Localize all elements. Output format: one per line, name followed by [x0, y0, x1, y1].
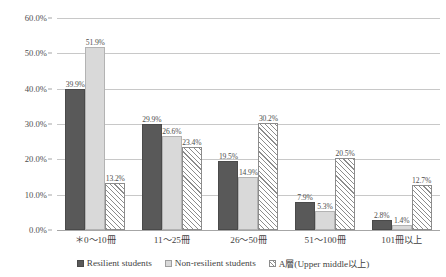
legend-label: Non-resilient students	[175, 258, 256, 268]
bar-non-resilient-students[interactable]: 26.6%	[162, 136, 182, 230]
bar-value-label: 19.5%	[219, 152, 238, 161]
bar-a-layer[interactable]: 12.7%	[412, 185, 432, 230]
bar-value-label: 30.2%	[259, 114, 278, 123]
bar-value-label: 2.8%	[374, 211, 389, 220]
bar-non-resilient-students[interactable]: 51.9%	[85, 47, 105, 230]
bar-slot: 39.9%	[65, 18, 85, 230]
y-tick-label: 60.0%	[25, 13, 47, 23]
bar-a-layer[interactable]: 20.5%	[335, 158, 355, 231]
bar-group: 39.9% 51.9% 13.2%	[57, 18, 134, 230]
legend-label: Resilient students	[87, 258, 152, 268]
bar-value-label: 20.5%	[336, 149, 355, 158]
bar-value-label: 12.7%	[412, 176, 431, 185]
y-tick-label: 0.0%	[29, 225, 47, 235]
bar-a-layer[interactable]: 23.4%	[182, 147, 202, 230]
bar-non-resilient-students[interactable]: 14.9%	[238, 177, 258, 230]
y-tick-mark	[48, 124, 52, 125]
y-tick-mark	[48, 53, 52, 54]
bar-value-label: 29.9%	[142, 115, 161, 124]
bar-value-label: 26.6%	[162, 127, 181, 136]
x-category-label: ＊0～10冊	[57, 232, 134, 246]
legend-swatch-icon	[77, 260, 84, 267]
bar-non-resilient-students[interactable]: 1.4%	[392, 225, 412, 230]
legend-label: A層(Upper middle以上)	[279, 256, 370, 270]
bar-slot: 5.3%	[315, 18, 335, 230]
bar-resilient-students[interactable]: 29.9%	[142, 124, 162, 230]
bar-a-layer[interactable]: 30.2%	[258, 123, 278, 230]
bar-slot: 51.9%	[85, 18, 105, 230]
legend-item-resilient-students[interactable]: Resilient students	[77, 258, 152, 268]
bar-resilient-students[interactable]: 19.5%	[218, 161, 238, 230]
bar-value-label: 39.9%	[66, 80, 85, 89]
plot-area: 39.9% 51.9% 13.2%	[57, 18, 440, 230]
y-tick-mark	[48, 230, 52, 231]
bar-value-label: 7.9%	[297, 193, 312, 202]
bar-chart: 60.0% 50.0% 40.0% 30.0% 20.0% 10.0% 0.0%	[0, 0, 446, 277]
bar-value-label: 51.9%	[86, 38, 105, 47]
bar-group: 19.5% 14.9% 30.2%	[210, 18, 287, 230]
bar-slot: 26.6%	[162, 18, 182, 230]
bar-groups: 39.9% 51.9% 13.2%	[57, 18, 440, 230]
y-axis: 60.0% 50.0% 40.0% 30.0% 20.0% 10.0% 0.0%	[0, 18, 52, 230]
x-category-label: 11～25冊	[134, 232, 211, 246]
y-tick-mark	[48, 18, 52, 19]
bar-value-label: 1.4%	[394, 216, 409, 225]
bar-slot: 2.8%	[372, 18, 392, 230]
bar-slot: 23.4%	[182, 18, 202, 230]
legend-item-non-resilient-students[interactable]: Non-resilient students	[165, 258, 256, 268]
x-axis: ＊0～10冊 11～25冊 26～50冊 51～100冊 101冊以上	[57, 232, 440, 246]
bar-value-label: 14.9%	[239, 168, 258, 177]
bar-slot: 30.2%	[258, 18, 278, 230]
bar-slot: 1.4%	[392, 18, 412, 230]
y-tick-label: 20.0%	[25, 154, 47, 164]
y-tick-mark	[48, 194, 52, 195]
bar-value-label: 23.4%	[182, 138, 201, 147]
chart-legend: Resilient students Non-resilient student…	[0, 256, 446, 270]
bar-non-resilient-students[interactable]: 5.3%	[315, 211, 335, 230]
bar-group: 29.9% 26.6% 23.4%	[134, 18, 211, 230]
x-category-label: 26～50冊	[210, 232, 287, 246]
bar-a-layer[interactable]: 13.2%	[105, 183, 125, 230]
bar-group: 7.9% 5.3% 20.5%	[287, 18, 364, 230]
bar-slot: 13.2%	[105, 18, 125, 230]
bar-slot: 7.9%	[295, 18, 315, 230]
bar-slot: 12.7%	[412, 18, 432, 230]
bar-resilient-students[interactable]: 2.8%	[372, 220, 392, 230]
x-category-label: 101冊以上	[363, 232, 440, 246]
legend-swatch-icon	[165, 260, 172, 267]
bar-slot: 20.5%	[335, 18, 355, 230]
legend-item-a-layer[interactable]: A層(Upper middle以上)	[269, 256, 370, 270]
bar-value-label: 13.2%	[106, 174, 125, 183]
y-tick-label: 30.0%	[25, 119, 47, 129]
bar-resilient-students[interactable]: 7.9%	[295, 202, 315, 230]
bar-group: 2.8% 1.4% 12.7%	[363, 18, 440, 230]
legend-swatch-icon	[269, 260, 276, 267]
x-axis-line	[57, 230, 440, 231]
bar-slot: 14.9%	[238, 18, 258, 230]
bar-slot: 29.9%	[142, 18, 162, 230]
y-tick-label: 10.0%	[25, 190, 47, 200]
bar-resilient-students[interactable]: 39.9%	[65, 89, 85, 230]
y-tick-label: 40.0%	[25, 84, 47, 94]
y-tick-label: 50.0%	[25, 48, 47, 58]
bar-slot: 19.5%	[218, 18, 238, 230]
x-category-label: 51～100冊	[287, 232, 364, 246]
bar-value-label: 5.3%	[317, 202, 332, 211]
y-tick-mark	[48, 159, 52, 160]
y-tick-mark	[48, 88, 52, 89]
